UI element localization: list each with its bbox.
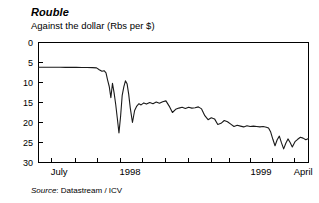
x-axis-tick-marks [52, 158, 295, 163]
y-axis-tick-labels: 051015202530 [23, 38, 33, 168]
y-tick-label: 10 [23, 78, 33, 88]
x-tick-label: 1998 [120, 166, 141, 177]
y-tick-label: 0 [28, 38, 33, 48]
chart-figure: Rouble Against the dollar (Rbs per $) 05… [0, 0, 319, 203]
source-label: Source [31, 186, 56, 195]
series-line-rouble [39, 67, 309, 149]
y-axis-tick-marks [39, 63, 44, 143]
x-axis-tick-labels: July19981999April [51, 166, 313, 177]
x-tick-label: 1999 [250, 166, 271, 177]
source-note: Source: Datastream / ICV [31, 186, 122, 196]
y-tick-label: 15 [23, 98, 33, 108]
x-tick-label: July [51, 166, 68, 177]
y-tick-label: 25 [23, 138, 33, 148]
plot-frame [39, 43, 309, 163]
y-tick-label: 30 [23, 158, 33, 168]
source-value: Datastream / ICV [61, 186, 122, 195]
x-tick-label: April [294, 166, 313, 177]
y-tick-label: 20 [23, 118, 33, 128]
y-tick-label: 5 [28, 58, 33, 68]
line-chart-plot: 051015202530 July19981999April [0, 0, 319, 203]
